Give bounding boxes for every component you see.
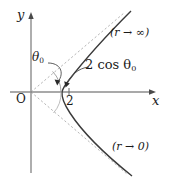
lower-asymptote-line <box>31 92 127 174</box>
x-tick-label-2: 2 <box>66 95 74 107</box>
polar-conic-figure: y x O 2 θ0 2 cos θ0 (r → ∞) (r → 0) <box>0 0 169 180</box>
two-cos-theta-subscript: 0 <box>131 64 136 73</box>
two-cos-theta-label: 2 cos θ0 <box>85 58 136 73</box>
theta-leader-curve <box>48 63 61 82</box>
r-to-infinity-label: (r → ∞) <box>110 27 149 38</box>
theta-zero-label: θ0 <box>32 51 44 64</box>
y-axis-arrowhead <box>28 12 33 19</box>
upper-asymptote-line <box>31 13 124 92</box>
theta-subscript: 0 <box>39 56 44 65</box>
r-to-zero-label: (r → 0) <box>112 141 149 152</box>
x-axis-label: x <box>152 94 159 107</box>
two-cos-theta-text: 2 cos θ <box>85 57 131 72</box>
y-axis-label: y <box>17 8 24 21</box>
conic-upper-branch <box>62 11 131 92</box>
theta-angle-arc-mirror <box>54 92 62 113</box>
origin-label: O <box>16 93 26 105</box>
